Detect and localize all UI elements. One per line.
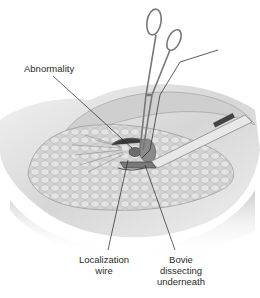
bovie-label: Bovie dissecting underneath — [149, 254, 213, 287]
localization-wire-label: Localization wire — [76, 254, 132, 276]
breast-tissue — [0, 84, 260, 258]
abnormality-label: Abnormality — [24, 63, 74, 74]
